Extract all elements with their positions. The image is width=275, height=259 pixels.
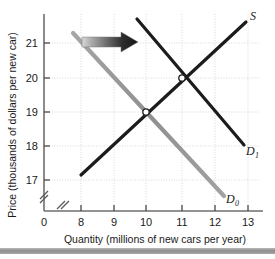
x-tick-label-12: 12 [209,216,221,228]
equilibrium-point-initial [143,109,149,115]
x-tick-label-11: 11 [176,216,187,228]
x-tick-label-10: 10 [140,216,152,228]
demand-d1-label-subscript: 1 [255,151,259,160]
x-tick-label-13: 13 [242,216,254,228]
supply-curve-label: S [250,9,256,23]
equilibrium-point-new [179,75,185,81]
demand-d0-label: D [225,192,235,206]
demand-d1-label: D [245,144,255,158]
plot-area-background [44,14,259,211]
footer-divider-bar [0,248,275,254]
supply-demand-chart: 21 20 19 18 17 0 8 9 10 11 12 13 Price (… [0,0,275,259]
footer-caption [4,255,275,259]
x-tick-label-9: 9 [111,216,117,228]
y-tick-label-20: 20 [26,72,38,84]
y-tick-label-19: 19 [26,106,38,118]
y-tick-label-21: 21 [26,37,38,49]
demand-d0-label-subscript: 0 [235,199,239,208]
x-tick-label-0: 0 [41,216,47,228]
chart-canvas: 21 20 19 18 17 0 8 9 10 11 12 13 Price (… [0,0,275,259]
y-axis-title: Price (thousands of dollars per new car) [6,32,18,218]
x-axis-title: Quantity (millions of new cars per year) [64,233,246,245]
x-tick-label-8: 8 [78,216,84,228]
y-tick-label-17: 17 [26,174,38,186]
y-tick-label-18: 18 [26,140,38,152]
